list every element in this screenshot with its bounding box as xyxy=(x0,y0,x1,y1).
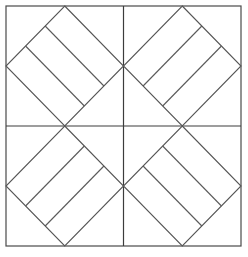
pattern-canvas xyxy=(0,0,248,257)
figure-root xyxy=(0,0,248,257)
